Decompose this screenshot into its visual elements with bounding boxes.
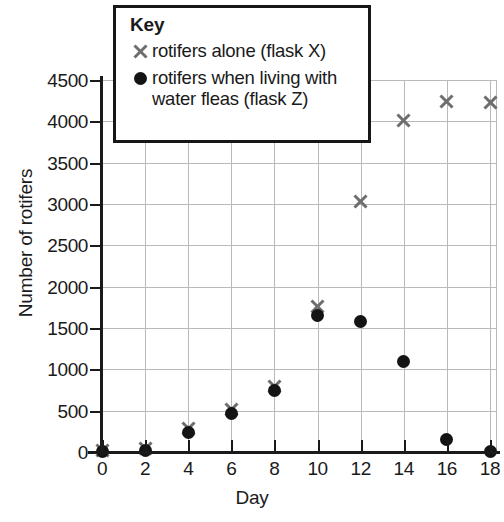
legend-entry-flask-z: rotifers when living with water fleas (f… <box>130 67 368 110</box>
legend-title: Key <box>130 14 368 36</box>
x-tick-label: 4 <box>166 459 210 478</box>
x-tick-label: 10 <box>296 459 340 478</box>
x-tick-label: 2 <box>123 459 167 478</box>
x-tick-label: 16 <box>425 459 469 478</box>
x-tick-label: 14 <box>382 459 426 478</box>
x-axis-title: Day <box>0 487 504 509</box>
dot-marker-icon <box>130 67 152 90</box>
legend-label-flask-x: rotifers alone (flask X) <box>152 40 326 61</box>
y-axis-title: Number of rotifers <box>15 133 37 353</box>
x-tick-label: 12 <box>339 459 383 478</box>
legend-label-flask-z: rotifers when living with water fleas (f… <box>152 67 337 110</box>
x-tick-label: 0 <box>80 459 124 478</box>
legend: Key rotifers alone (flask X) rotifers wh… <box>113 5 371 143</box>
x-tick-label: 18 <box>468 459 504 478</box>
cross-marker-icon <box>130 40 152 63</box>
scatter-chart: 050010001500200025003000350040004500 024… <box>0 0 504 522</box>
legend-entry-flask-x: rotifers alone (flask X) <box>130 40 368 63</box>
x-tick-label: 6 <box>209 459 253 478</box>
x-tick-label: 8 <box>252 459 296 478</box>
